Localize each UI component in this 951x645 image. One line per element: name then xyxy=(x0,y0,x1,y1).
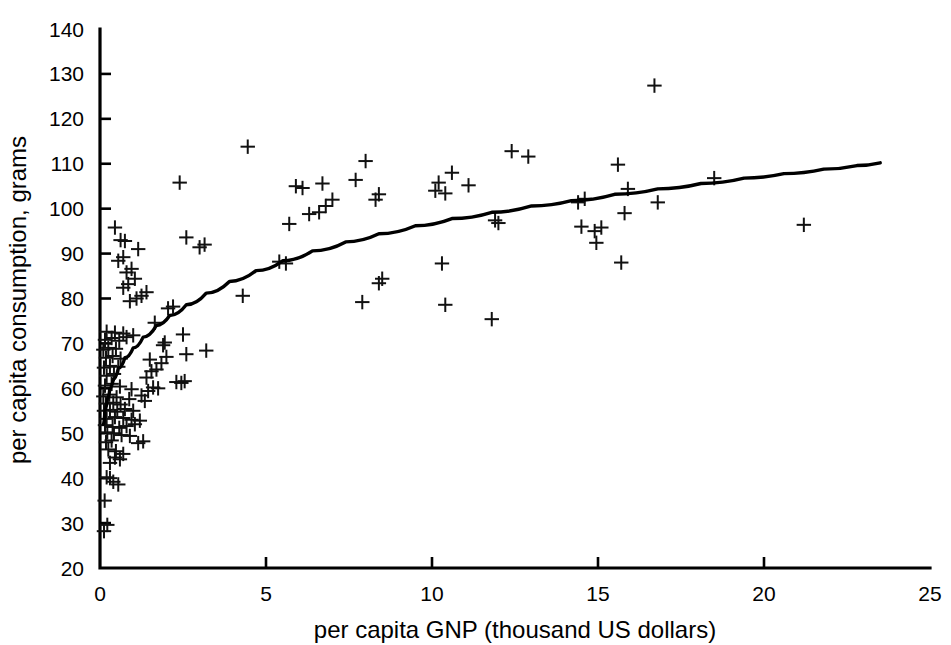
data-point-marker xyxy=(312,205,326,219)
data-point-marker xyxy=(108,220,122,234)
data-points xyxy=(96,78,811,538)
data-point-marker xyxy=(199,343,213,357)
y-tick-label: 90 xyxy=(61,242,84,265)
y-tick-label: 80 xyxy=(61,287,84,310)
data-point-marker xyxy=(100,518,114,532)
data-point-marker xyxy=(438,298,452,312)
data-point-marker xyxy=(647,78,661,92)
y-tick-label: 50 xyxy=(61,422,84,445)
data-point-marker xyxy=(282,217,296,231)
data-point-marker xyxy=(176,327,190,341)
data-point-marker xyxy=(617,206,631,220)
data-point-marker xyxy=(179,230,193,244)
data-point-marker xyxy=(574,219,588,233)
data-point-marker xyxy=(156,338,170,352)
y-tick-label: 70 xyxy=(61,332,84,355)
x-tick-label: 5 xyxy=(260,582,272,605)
fit-curve xyxy=(103,163,880,424)
data-point-marker xyxy=(289,179,303,193)
data-point-marker xyxy=(589,236,603,250)
data-point-marker xyxy=(143,352,157,366)
data-point-marker xyxy=(651,195,665,209)
data-point-marker xyxy=(103,471,117,485)
scatter-plot-figure: 2030405060708090100110120130140 05101520… xyxy=(0,0,951,645)
y-axis: 2030405060708090100110120130140 xyxy=(49,18,111,580)
data-point-marker xyxy=(319,199,333,213)
data-point-marker xyxy=(302,207,316,221)
data-point-marker xyxy=(358,154,372,168)
x-tick-label: 0 xyxy=(94,582,106,605)
data-point-marker xyxy=(614,255,628,269)
data-point-marker xyxy=(172,175,186,189)
data-point-marker xyxy=(295,181,309,195)
data-point-marker xyxy=(488,213,502,227)
data-point-marker xyxy=(348,173,362,187)
data-point-marker xyxy=(179,347,193,361)
data-point-marker xyxy=(241,139,255,153)
chart-canvas: 2030405060708090100110120130140 05101520… xyxy=(0,0,951,645)
data-point-marker xyxy=(491,216,505,230)
y-tick-label: 60 xyxy=(61,377,84,400)
y-tick-label: 40 xyxy=(61,467,84,490)
y-tick-label: 100 xyxy=(49,197,84,220)
axis-frame xyxy=(100,29,930,568)
data-point-marker xyxy=(438,186,452,200)
x-axis: 0510152025 xyxy=(94,557,942,605)
y-tick-label: 110 xyxy=(51,152,84,175)
data-point-marker xyxy=(315,176,329,190)
data-point-marker xyxy=(461,178,475,192)
x-tick-label: 10 xyxy=(420,582,443,605)
x-tick-label: 25 xyxy=(918,582,941,605)
data-point-marker xyxy=(124,382,138,396)
data-point-marker xyxy=(113,379,127,393)
data-point-marker xyxy=(504,144,518,158)
data-point-marker xyxy=(431,175,445,189)
data-point-marker xyxy=(177,374,191,388)
data-point-marker xyxy=(325,192,339,206)
data-point-marker xyxy=(445,166,459,180)
data-point-marker xyxy=(131,242,145,256)
data-point-marker xyxy=(587,224,601,238)
data-point-marker xyxy=(236,289,250,303)
data-point-marker xyxy=(126,404,140,418)
y-tick-label: 30 xyxy=(61,512,84,535)
data-point-marker xyxy=(158,335,172,349)
data-point-marker xyxy=(594,220,608,234)
x-tick-label: 15 xyxy=(586,582,609,605)
y-tick-label: 140 xyxy=(49,18,84,41)
y-axis-title: per capita consumption, grams xyxy=(4,136,31,464)
y-tick-label: 20 xyxy=(61,557,84,580)
x-axis-title: per capita GNP (thousand US dollars) xyxy=(314,616,716,643)
data-point-marker xyxy=(126,328,140,342)
data-point-marker xyxy=(355,295,369,309)
data-point-marker xyxy=(428,184,442,198)
x-tick-label: 20 xyxy=(752,582,775,605)
data-point-marker xyxy=(611,157,625,171)
data-point-marker xyxy=(571,195,585,209)
data-point-marker xyxy=(797,218,811,232)
plot-axes xyxy=(100,29,930,568)
data-point-marker xyxy=(435,256,449,270)
data-point-marker xyxy=(101,442,115,456)
y-tick-label: 130 xyxy=(49,62,84,85)
y-tick-label: 120 xyxy=(49,107,84,130)
data-point-marker xyxy=(485,312,499,326)
data-point-marker xyxy=(521,149,535,163)
